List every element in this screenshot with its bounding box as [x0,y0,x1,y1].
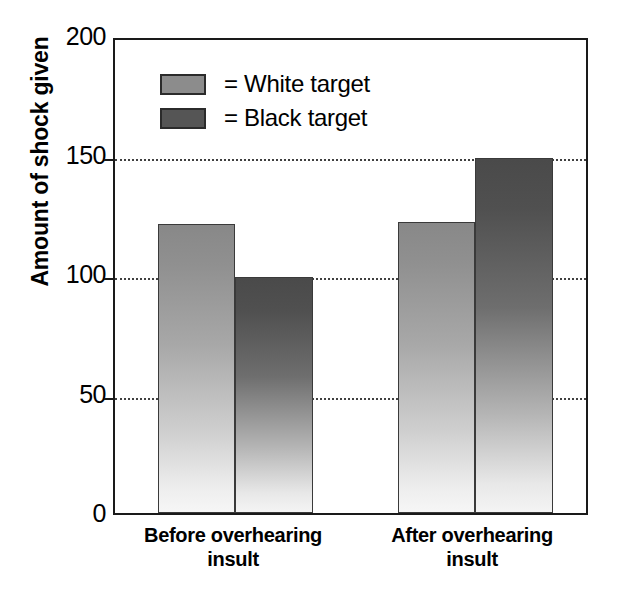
legend-item-white-target: = White target [160,67,370,101]
plot-area: = White target = Black target [113,38,588,515]
y-tick-label-150: 150 [44,143,106,168]
bar-before-white-target [158,224,235,513]
y-tick-mark-50 [104,398,115,400]
bar-after-black-target [475,158,553,513]
x-group-label-before-line2: insult [113,548,353,572]
x-group-label-after-line1: After overhearing [356,524,588,548]
legend-label-white-target: = White target [224,70,370,98]
x-group-label-after-line2: insult [356,548,588,572]
y-axis-tick-labels: 200 150 100 50 0 [38,0,106,607]
y-tick-mark-150 [104,159,115,161]
x-group-label-before: Before overhearing insult [113,524,353,571]
legend-label-black-target: = Black target [224,104,367,132]
legend-swatch-white-target-icon [160,74,206,95]
bar-after-white-target [398,222,475,513]
x-group-label-after: After overhearing insult [356,524,588,571]
legend-item-black-target: = Black target [160,101,370,135]
x-group-label-before-line1: Before overhearing [113,524,353,548]
y-tick-mark-100 [104,278,115,280]
bar-before-black-target [235,277,313,514]
x-axis-labels: Before overhearing insult After overhear… [113,524,588,594]
y-tick-label-0: 0 [44,501,106,526]
y-tick-label-50: 50 [44,382,106,407]
y-tick-label-200: 200 [44,24,106,49]
legend: = White target = Black target [160,67,370,135]
legend-swatch-black-target-icon [160,108,206,129]
bar-chart-figure: Amount of shock given 200 150 100 50 0 =… [0,0,620,607]
y-tick-label-100: 100 [44,262,106,287]
